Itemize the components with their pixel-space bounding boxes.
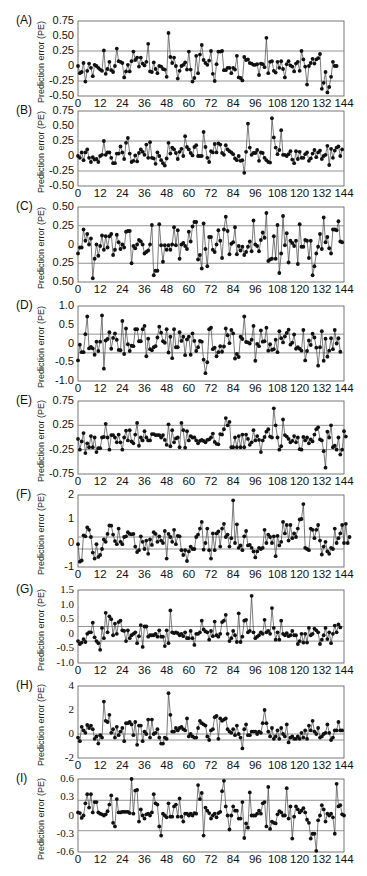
data-point <box>139 808 143 812</box>
data-point <box>132 812 136 816</box>
data-point <box>242 836 246 840</box>
data-point <box>228 828 232 832</box>
data-point <box>301 806 305 810</box>
data-point <box>91 811 95 815</box>
data-point <box>89 792 93 796</box>
data-point <box>239 817 243 821</box>
data-point <box>285 786 289 790</box>
data-point <box>178 797 182 801</box>
data-point <box>202 834 206 838</box>
data-point <box>194 812 198 816</box>
data-point <box>130 777 134 781</box>
data-point <box>213 812 217 816</box>
data-point <box>231 804 235 808</box>
data-point <box>156 803 160 807</box>
data-point <box>95 800 99 804</box>
series-line <box>78 779 344 851</box>
data-point <box>167 801 171 805</box>
data-point <box>115 797 119 801</box>
data-point <box>246 826 250 830</box>
data-point <box>241 800 245 804</box>
data-point <box>226 814 230 818</box>
data-point <box>316 818 320 822</box>
data-point <box>207 811 211 815</box>
data-point <box>329 812 333 816</box>
data-point <box>218 810 222 814</box>
data-point <box>174 803 178 807</box>
data-point <box>335 782 339 786</box>
data-point <box>83 801 87 805</box>
data-point <box>322 808 326 812</box>
data-point <box>165 815 169 819</box>
data-point <box>313 832 317 836</box>
data-point <box>106 809 110 813</box>
data-point <box>314 849 318 853</box>
data-point <box>159 834 163 838</box>
data-point <box>200 791 204 795</box>
data-point <box>235 809 239 813</box>
data-point <box>111 821 115 825</box>
data-point <box>180 815 184 819</box>
data-point <box>266 785 270 789</box>
data-point <box>342 814 346 818</box>
data-point <box>307 821 311 825</box>
data-point <box>152 792 156 796</box>
data-point <box>268 827 272 831</box>
data-point <box>113 825 117 829</box>
data-point <box>196 783 200 787</box>
data-point <box>265 825 269 829</box>
data-point <box>229 814 233 818</box>
data-point <box>224 804 228 808</box>
data-point <box>198 797 202 801</box>
data-point <box>318 814 322 818</box>
data-point <box>170 815 174 819</box>
plot-area <box>0 0 367 876</box>
data-point <box>263 800 267 804</box>
data-point <box>176 815 180 819</box>
data-point <box>320 803 324 807</box>
data-point <box>338 803 342 807</box>
data-point <box>303 811 307 815</box>
data-point <box>78 811 82 815</box>
data-point <box>137 820 141 824</box>
data-point <box>289 804 293 808</box>
data-point <box>82 814 86 818</box>
data-point <box>283 814 287 818</box>
data-point <box>150 811 154 815</box>
data-point <box>143 817 147 821</box>
data-point <box>331 815 335 819</box>
data-point <box>128 811 132 815</box>
data-point <box>274 822 278 826</box>
data-point <box>215 815 219 819</box>
data-point <box>244 822 248 826</box>
data-point <box>87 806 91 810</box>
data-point <box>292 815 296 819</box>
data-point <box>324 820 328 824</box>
data-point <box>248 790 252 794</box>
data-point <box>85 792 89 796</box>
data-point <box>181 820 185 824</box>
data-point <box>259 812 263 816</box>
data-point <box>135 788 139 792</box>
data-point <box>157 825 161 829</box>
data-point <box>290 837 294 841</box>
data-point <box>222 779 226 783</box>
data-point <box>287 817 291 821</box>
data-point <box>220 789 224 793</box>
data-point <box>108 803 112 807</box>
data-point <box>333 832 337 836</box>
data-point <box>109 794 113 798</box>
data-point <box>309 837 313 841</box>
